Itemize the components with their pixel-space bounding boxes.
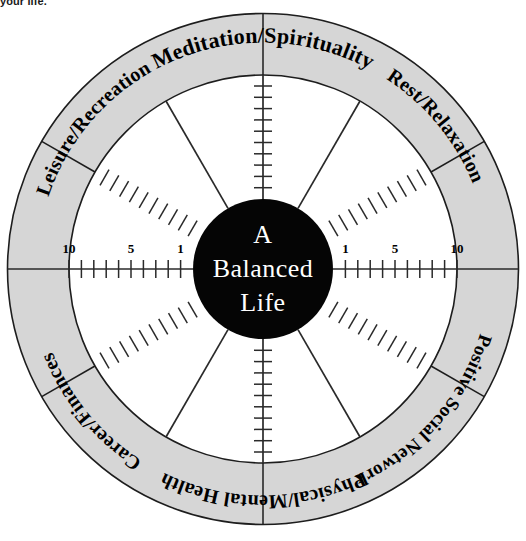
hub-line-1: A — [253, 220, 272, 249]
scale-label-left-10: 10 — [63, 241, 76, 256]
wheel-geometry: A Balanced Life 10 5 1 1 5 10 Meditation… — [8, 14, 519, 525]
scale-label-right-10: 10 — [451, 241, 464, 256]
diagram-canvas: your life. — [0, 0, 526, 541]
scale-label-left-5: 5 — [128, 241, 135, 256]
hub-line-3: Life — [240, 288, 285, 317]
scale-label-right-5: 5 — [392, 241, 399, 256]
scale-label-right-1: 1 — [342, 241, 349, 256]
balanced-life-wheel: A Balanced Life 10 5 1 1 5 10 Meditation… — [0, 0, 526, 541]
scale-label-left-1: 1 — [177, 241, 184, 256]
hub-line-2: Balanced — [213, 254, 314, 283]
